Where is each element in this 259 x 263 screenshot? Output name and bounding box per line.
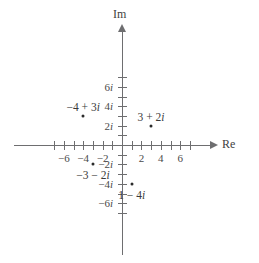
real-axis-tick: [141, 141, 142, 150]
real-axis-tick: [132, 141, 133, 150]
real-axis-line: [14, 145, 214, 146]
real-axis-tick: [54, 141, 55, 150]
real-axis-tick: [103, 141, 104, 150]
complex-plane-chart: Re Im −6−4−22466i4i2i−2i−4i−6i −4 + 3i3 …: [0, 0, 259, 263]
data-point-label-1-minus-4i: 1 − 4i: [118, 189, 145, 201]
data-point-minus-3-minus-2i: [91, 163, 94, 166]
real-axis-tick: [112, 141, 113, 150]
imaginary-axis-tick-label: 4i: [104, 101, 113, 112]
real-axis-arrowhead: [210, 141, 218, 149]
data-point-3-plus-2i: [150, 124, 153, 127]
imaginary-axis-tick: [118, 213, 127, 214]
data-point-label-minus-3-minus-2i: −3 − 2i: [76, 169, 109, 181]
imaginary-axis-tick: [118, 164, 127, 165]
real-axis-tick: [74, 141, 75, 150]
imaginary-axis-label: Im: [113, 8, 126, 20]
real-axis-tick: [190, 141, 191, 150]
real-axis-tick: [93, 141, 94, 150]
real-axis-tick: [171, 141, 172, 150]
real-axis-tick: [161, 141, 162, 150]
imaginary-axis-tick-label: −6i: [98, 198, 113, 209]
imaginary-axis-tick: [118, 87, 127, 88]
imaginary-axis-line: [122, 28, 123, 255]
data-point-label-minus-4-plus-3i: −4 + 3i: [66, 101, 99, 113]
imaginary-axis-tick: [118, 135, 127, 136]
real-axis-tick: [151, 141, 152, 150]
imaginary-axis-tick-label: 6i: [104, 81, 113, 92]
imaginary-axis-tick-label: 2i: [104, 120, 113, 131]
imaginary-axis-tick: [118, 106, 127, 107]
imaginary-axis-tick: [118, 174, 127, 175]
imaginary-axis-tick: [118, 116, 127, 117]
imaginary-axis-tick: [118, 77, 127, 78]
real-axis-tick: [180, 141, 181, 150]
imaginary-axis-tick: [118, 155, 127, 156]
imaginary-axis-tick-label: −2i: [98, 159, 113, 170]
real-axis-tick-label: 2: [139, 153, 145, 164]
real-axis-tick: [64, 141, 65, 150]
real-axis-tick: [83, 141, 84, 150]
data-point-minus-4-plus-3i: [82, 114, 85, 117]
real-axis-tick-label: 4: [158, 153, 164, 164]
imaginary-axis-tick: [118, 184, 127, 185]
imaginary-axis-tick: [118, 126, 127, 127]
data-point-label-3-plus-2i: 3 + 2i: [138, 111, 165, 123]
imaginary-axis-tick: [118, 97, 127, 98]
real-axis-tick-label: −4: [77, 153, 89, 164]
real-axis-label: Re: [222, 138, 235, 150]
imaginary-axis-tick: [118, 203, 127, 204]
data-point-1-minus-4i: [130, 182, 133, 185]
real-axis-tick-label: 6: [177, 153, 183, 164]
real-axis-tick-label: −6: [58, 153, 70, 164]
imaginary-axis-arrowhead: [118, 24, 126, 32]
